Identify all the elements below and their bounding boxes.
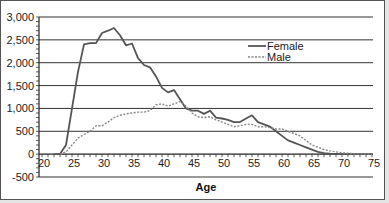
y-tick-label: 1,500: [6, 80, 34, 92]
x-axis-title: Age: [196, 181, 217, 193]
y-axis: 3,0002,5002,0001,5001,0005000-500: [6, 11, 39, 183]
x-tick-label: 45: [188, 157, 200, 169]
y-tick-label: 3,000: [6, 11, 34, 23]
series-lines: [54, 28, 372, 154]
y-tick-label: 0: [28, 148, 34, 160]
x-tick-label: 35: [128, 157, 140, 169]
x-axis: 202530354045505560657075: [38, 154, 380, 169]
x-tick-label: 40: [158, 157, 170, 169]
x-tick-label: 75: [368, 157, 380, 169]
x-tick-label: 50: [218, 157, 230, 169]
x-tick-label: 60: [278, 157, 290, 169]
x-tick-label: 70: [338, 157, 350, 169]
series-female-line: [54, 28, 372, 154]
x-tick-label: 55: [248, 157, 260, 169]
x-tick-label: 20: [38, 157, 50, 169]
y-tick-label: 2,000: [6, 57, 34, 69]
legend: FemaleMale: [248, 40, 304, 63]
legend-male-label: Male: [267, 51, 291, 63]
line-chart: 3,0002,5002,0001,5001,0005000-500 202530…: [0, 0, 389, 203]
y-tick-label: 2,500: [6, 34, 34, 46]
y-tick-label: 500: [16, 125, 34, 137]
series-male-line: [60, 102, 372, 155]
y-tick-label: 1,000: [6, 102, 34, 114]
x-tick-label: 25: [68, 157, 80, 169]
y-tick-label: -500: [12, 171, 34, 183]
x-tick-label: 65: [308, 157, 320, 169]
x-tick-label: 30: [98, 157, 110, 169]
